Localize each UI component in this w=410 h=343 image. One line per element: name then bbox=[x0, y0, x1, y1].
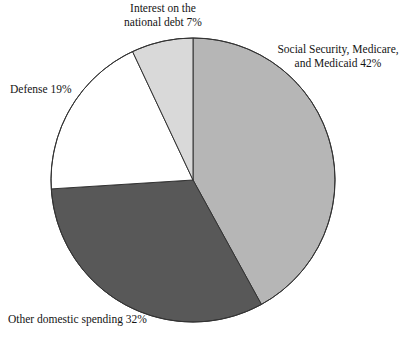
pie-chart-figure: Interest on the national debt 7% Social … bbox=[0, 0, 410, 343]
pie-label-social-security: Social Security, Medicare, and Medicaid … bbox=[266, 43, 410, 70]
pie-label-defense: Defense 19% bbox=[10, 83, 106, 97]
pie-label-interest-national-debt: Interest on the national debt 7% bbox=[104, 2, 222, 29]
pie-label-other-domestic-spending: Other domestic spending 32% bbox=[8, 313, 188, 327]
